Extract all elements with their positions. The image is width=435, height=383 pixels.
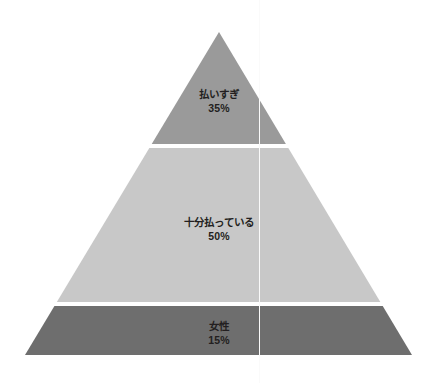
segment-top-name: 払いすぎ — [2, 88, 435, 102]
segment-label-middle: 十分払っている 50% — [2, 216, 435, 244]
pyramid-chart: 払いすぎ 35% 十分払っている 50% 女性 15% — [0, 0, 435, 383]
segment-middle-name: 十分払っている — [2, 216, 435, 230]
segment-bottom-value: 15% — [2, 334, 435, 348]
segment-label-bottom: 女性 15% — [2, 320, 435, 348]
segment-bottom-name: 女性 — [2, 320, 435, 334]
segment-label-top: 払いすぎ 35% — [2, 88, 435, 116]
segment-middle-value: 50% — [2, 230, 435, 244]
segment-top-value: 35% — [2, 102, 435, 116]
